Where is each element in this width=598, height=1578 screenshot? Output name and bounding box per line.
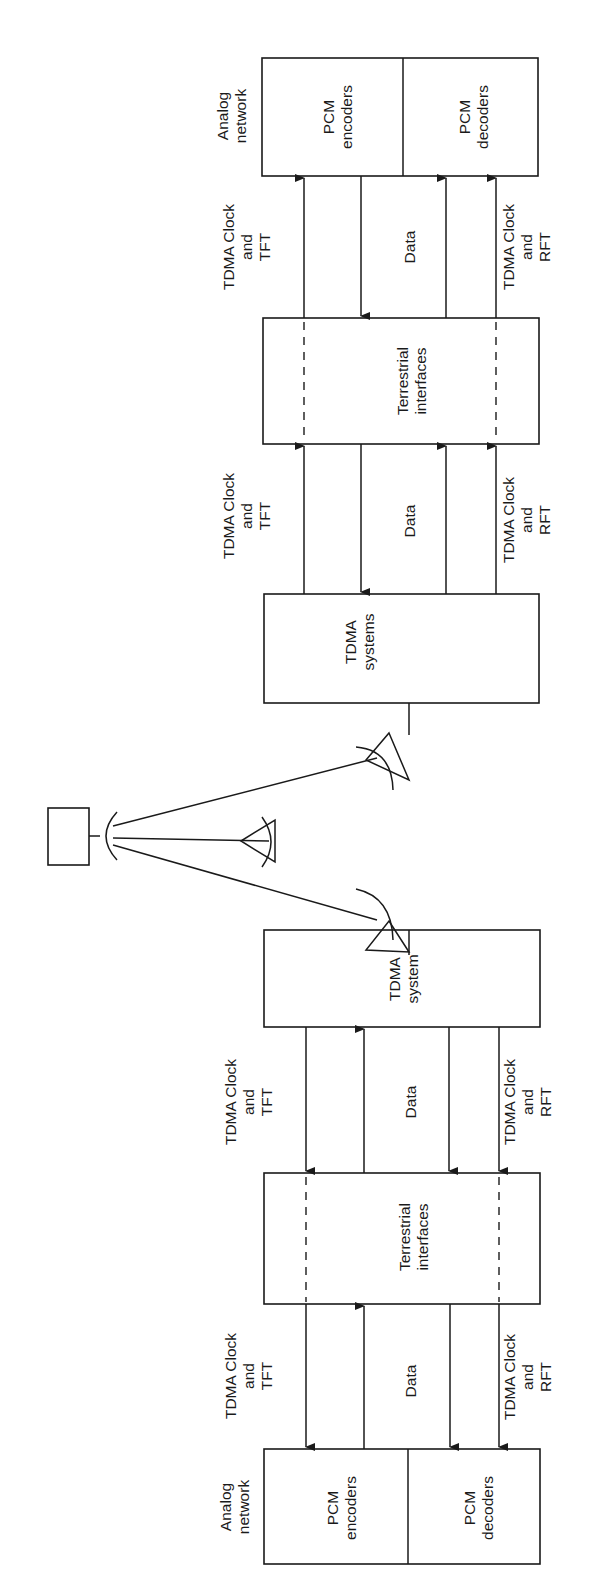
svg-text:TDMA: TDMA (342, 619, 359, 664)
svg-text:TDMA Clock: TDMA Clock (501, 1059, 518, 1145)
svg-text:network: network (232, 89, 249, 144)
svg-text:and: and (518, 507, 535, 533)
svg-text:TFT: TFT (258, 1361, 275, 1390)
satellite-icon (48, 808, 89, 865)
svg-text:RFT: RFT (536, 231, 553, 262)
svg-text:TDMA Clock: TDMA Clock (220, 204, 237, 290)
top-clock-tft-label-2: TDMA Clock and TFT (220, 473, 273, 559)
svg-text:system: system (404, 954, 421, 1003)
svg-text:TDMA Clock: TDMA Clock (222, 1333, 239, 1419)
top-pcm-terrestrial-links (304, 176, 496, 318)
svg-text:TDMA Clock: TDMA Clock (222, 1059, 239, 1145)
svg-text:TDMA Clock: TDMA Clock (220, 473, 237, 559)
bottom-analog-network-label: Analog network (217, 1480, 252, 1535)
bottom-pcm-box (264, 1449, 540, 1564)
svg-text:TFT: TFT (256, 232, 273, 261)
svg-text:RFT: RFT (537, 1086, 554, 1117)
svg-text:encoders: encoders (342, 1476, 359, 1540)
top-tdma-systems-label: TDMA systems (342, 613, 377, 670)
svg-text:Terrestrial: Terrestrial (394, 347, 411, 415)
top-pcm-encoders-label: PCM encoders (320, 85, 355, 149)
top-terrestrial-tdma-links (304, 444, 496, 594)
svg-text:and: and (240, 1089, 257, 1115)
satellite-link (48, 733, 409, 952)
svg-text:decoders: decoders (474, 85, 491, 149)
beam-lower (113, 845, 377, 920)
beam-upper (113, 758, 377, 826)
bottom-station: TDMA system TDMA Clock and TFT Data TDMA… (217, 930, 554, 1564)
bottom-pcm-encoders-label: PCM encoders (324, 1476, 359, 1540)
top-tdma-systems-box (264, 594, 539, 703)
svg-text:interfaces: interfaces (414, 1203, 431, 1270)
svg-text:Data: Data (401, 230, 418, 263)
bottom-clock-rft-label-1: TDMA Clock and RFT (501, 1059, 554, 1145)
svg-text:Analog: Analog (214, 92, 231, 140)
svg-text:Data: Data (401, 504, 418, 537)
top-pcm-decoders-label: PCM decoders (456, 85, 491, 149)
svg-text:TDMA Clock: TDMA Clock (500, 477, 517, 563)
svg-text:TFT: TFT (258, 1087, 275, 1116)
svg-text:and: and (240, 1363, 257, 1389)
svg-text:and: and (518, 234, 535, 260)
top-station: Analog network PCM encoders PCM decoders… (214, 58, 553, 735)
svg-text:TDMA Clock: TDMA Clock (500, 204, 517, 290)
top-pcm-box (262, 58, 538, 176)
svg-text:PCM: PCM (320, 100, 337, 134)
satellite-dish-icon (106, 812, 117, 860)
svg-text:encoders: encoders (338, 85, 355, 149)
svg-text:decoders: decoders (479, 1476, 496, 1540)
svg-text:Terrestrial: Terrestrial (396, 1203, 413, 1271)
bottom-clock-rft-label-2: TDMA Clock and RFT (501, 1334, 554, 1420)
svg-text:and: and (519, 1364, 536, 1390)
top-analog-network-label: Analog network (214, 89, 249, 144)
svg-text:Data: Data (402, 1364, 419, 1397)
svg-text:TFT: TFT (256, 501, 273, 530)
bottom-pcm-decoders-label: PCM decoders (461, 1476, 496, 1540)
bottom-data-label-2: Data (402, 1364, 419, 1397)
middle-earth-antenna-icon (241, 817, 275, 867)
top-data-label-1: Data (401, 230, 418, 263)
top-clock-tft-label-1: TDMA Clock and TFT (220, 204, 273, 290)
svg-text:Analog: Analog (217, 1483, 234, 1531)
bottom-terrestrial-label: Terrestrial interfaces (396, 1203, 431, 1271)
svg-text:PCM: PCM (456, 100, 473, 134)
svg-text:RFT: RFT (537, 1361, 554, 1392)
svg-text:PCM: PCM (324, 1491, 341, 1525)
bottom-data-label-1: Data (402, 1085, 419, 1118)
svg-text:TDMA: TDMA (386, 956, 403, 1001)
svg-text:PCM: PCM (461, 1491, 478, 1525)
top-data-label-2: Data (401, 504, 418, 537)
svg-text:and: and (238, 234, 255, 260)
svg-text:network: network (235, 1480, 252, 1535)
svg-text:RFT: RFT (536, 504, 553, 535)
bottom-clock-tft-label-2: TDMA Clock and TFT (222, 1333, 275, 1419)
bottom-clock-tft-label-1: TDMA Clock and TFT (222, 1059, 275, 1145)
svg-text:systems: systems (360, 613, 377, 670)
top-clock-rft-label-2: TDMA Clock and RFT (500, 477, 553, 563)
top-terrestrial-label: Terrestrial interfaces (394, 347, 429, 415)
svg-text:interfaces: interfaces (412, 347, 429, 414)
svg-text:Data: Data (402, 1085, 419, 1118)
lower-earth-antenna-icon (356, 889, 409, 952)
svg-text:and: and (519, 1089, 536, 1115)
top-clock-rft-label-1: TDMA Clock and RFT (500, 204, 553, 290)
svg-text:TDMA Clock: TDMA Clock (501, 1334, 518, 1420)
tdma-network-diagram: Analog network PCM encoders PCM decoders… (0, 0, 598, 1578)
bottom-tdma-system-label: TDMA system (386, 954, 421, 1003)
svg-text:and: and (238, 503, 255, 529)
